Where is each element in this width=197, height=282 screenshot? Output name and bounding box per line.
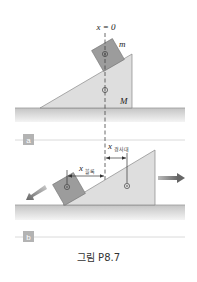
axis-label: x = 0 <box>95 22 116 32</box>
block-label-m: m <box>119 39 126 49</box>
block-motion-arrow-icon <box>26 185 47 200</box>
panel-b: x 블록 x 경사대 <box>15 141 185 220</box>
panel-a: x = 0 m M <box>15 22 185 122</box>
ground-b <box>15 205 185 220</box>
incline-label-M: M <box>119 96 128 106</box>
ground-a <box>15 108 185 122</box>
incline-motion-arrow-icon <box>158 173 185 183</box>
block-displacement-label: x <box>78 163 83 173</box>
incline-displacement-label: x <box>107 141 112 151</box>
svg-text:블록: 블록 <box>85 168 95 175</box>
figure-caption: 그림 P8.7 <box>0 249 197 264</box>
figure-canvas: x = 0 m M a x 블록 x 경사대 <box>0 0 197 282</box>
svg-text:경사대: 경사대 <box>114 146 129 153</box>
svg-text:b: b <box>26 233 31 242</box>
svg-text:a: a <box>26 136 31 145</box>
